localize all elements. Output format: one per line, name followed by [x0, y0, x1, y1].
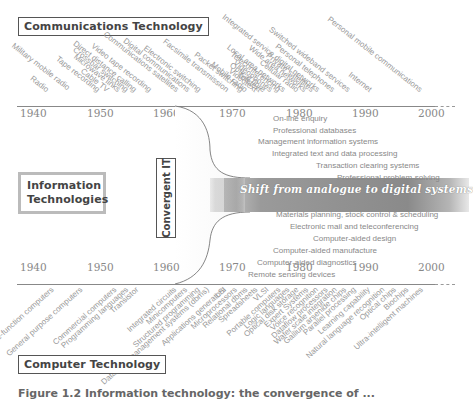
shift-analogue-digital-label: Shift from analogue to digital systems — [240, 183, 473, 195]
it-application: Computer-aided manufacture — [273, 246, 377, 255]
information-technologies-label: Information Technologies — [18, 172, 106, 214]
it-application: Professional databases — [273, 126, 356, 135]
bottom-year-1960: 1960 — [153, 261, 180, 273]
convergent-it-text: Convergent IT — [161, 158, 172, 237]
convergent-it-label: Convergent IT — [156, 158, 176, 238]
computer-technology-label: Computer Technology — [18, 355, 166, 374]
it-application: On-line enquiry — [273, 114, 327, 123]
it-application: Professional problem-solving — [337, 173, 440, 182]
it-application: Integrated text and data processing — [272, 149, 397, 158]
bottom-year-1950: 1950 — [87, 261, 114, 273]
bottom-year-1940: 1940 — [20, 261, 47, 273]
bottom-timeline-axis — [17, 284, 435, 285]
it-application: Computer-aided design — [313, 234, 396, 243]
bottom-year-2000: 2000 — [418, 261, 445, 273]
figure-caption: Figure 1.2 Information technology: the c… — [18, 387, 375, 400]
bottom-timeline-extension — [435, 284, 455, 285]
it-application: Electronic mail and teleconferencing — [290, 222, 419, 231]
it-application: Management information systems — [258, 137, 378, 146]
it-application: Transaction clearing systems — [316, 161, 419, 170]
it-application: Materials planning, stock control & sche… — [276, 210, 438, 219]
bottom-year-1970: 1970 — [219, 261, 246, 273]
bottom-year-1980: 1980 — [286, 261, 313, 273]
bottom-year-1990: 1990 — [352, 261, 379, 273]
